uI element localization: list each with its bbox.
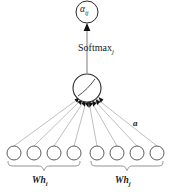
input-node-5[interactable] xyxy=(90,146,104,160)
diagram-canvas xyxy=(0,0,175,194)
right-group-subscript: j xyxy=(129,180,131,187)
input-node-4[interactable] xyxy=(67,146,81,160)
arrowhead-6 xyxy=(92,101,97,107)
right-group-label: Whj xyxy=(115,176,131,187)
edge-input-1 xyxy=(14,99,78,146)
brace-left-group xyxy=(8,161,80,171)
edge-input-8 xyxy=(97,99,157,146)
softmax-text: Softmax xyxy=(78,42,112,53)
input-node-8[interactable] xyxy=(150,146,164,160)
arrowhead-5 xyxy=(89,102,93,108)
edge-input-4 xyxy=(74,102,86,146)
edge-input-5 xyxy=(89,102,97,146)
left-group-subscript: i xyxy=(46,180,48,187)
edge-input-6 xyxy=(91,101,117,146)
input-node-group xyxy=(7,146,164,160)
edge-input-2 xyxy=(34,100,81,146)
edge-input-3 xyxy=(54,101,84,146)
alpha-subscript: ij xyxy=(85,9,89,16)
output-node-label: αij xyxy=(80,5,89,16)
softmax-output-arrowhead xyxy=(84,23,91,31)
input-node-7[interactable] xyxy=(130,146,144,160)
input-node-2[interactable] xyxy=(27,146,41,160)
left-group-label: Whi xyxy=(32,176,48,187)
attention-vector-label: a xyxy=(133,119,138,128)
input-node-1[interactable] xyxy=(7,146,21,160)
right-group-text: Wh xyxy=(115,175,129,185)
attention-diagram-figure: αij Softmaxj a Whi Whj xyxy=(0,0,175,194)
softmax-subscript: j xyxy=(112,48,114,56)
brace-right-group xyxy=(91,161,163,171)
left-group-text: Wh xyxy=(32,175,46,185)
input-node-3[interactable] xyxy=(47,146,61,160)
softmax-label: Softmaxj xyxy=(78,43,114,56)
input-node-6[interactable] xyxy=(110,146,124,160)
edge-input-7 xyxy=(94,100,137,146)
